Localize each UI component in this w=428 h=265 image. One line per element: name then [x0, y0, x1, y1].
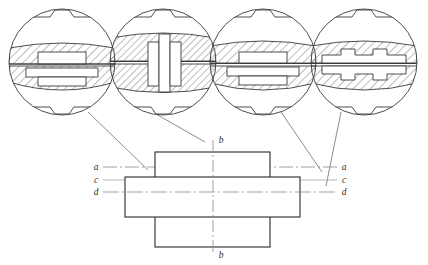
leader-from-detail-d: [326, 112, 341, 186]
detail-view-c: [210, 9, 316, 115]
detail-c-bottom-notch: [221, 107, 305, 114]
drawing-canvas: a a c c d d b b: [0, 0, 428, 265]
horizontal-block: [125, 177, 300, 217]
detail-b-key-center-leg: [159, 34, 170, 92]
detail-a-upper-key: [38, 52, 86, 64]
leader-from-detail-c: [281, 112, 322, 172]
label-d-right: d: [342, 187, 347, 197]
detail-c-upper-key: [239, 52, 287, 63]
detail-c-lower-key-narrow: [239, 76, 287, 85]
detail-a-bottom-notch: [20, 107, 104, 114]
detail-a-lower-key-narrow: [38, 77, 86, 86]
label-a-right: a: [342, 162, 347, 172]
technical-drawing-svg: a a c c d d b b: [0, 0, 428, 265]
detail-c-lower-key-wide: [227, 67, 299, 76]
detail-d-bottom-notch: [322, 107, 406, 114]
detail-view-b: [110, 9, 216, 115]
label-d-left: d: [94, 187, 99, 197]
leader-from-detail-b: [156, 114, 205, 142]
label-b-top: b: [219, 135, 224, 145]
detail-b-key-right-leg: [170, 42, 181, 86]
detail-b-bottom-notch: [121, 107, 205, 114]
detail-a-top-notch: [20, 10, 104, 17]
detail-c-top-notch: [221, 10, 305, 17]
label-c-left: c: [94, 175, 99, 185]
detail-d-top-notch: [322, 10, 406, 17]
detail-a-lower-key-wide: [26, 68, 98, 77]
detail-b-key-left-leg: [148, 42, 159, 86]
detail-view-d: [311, 9, 417, 115]
label-a-left: a: [94, 162, 99, 172]
label-c-right: c: [342, 175, 347, 185]
detail-b-top-notch: [121, 10, 205, 17]
detail-view-a: [9, 9, 115, 115]
label-b-bottom: b: [219, 250, 224, 260]
